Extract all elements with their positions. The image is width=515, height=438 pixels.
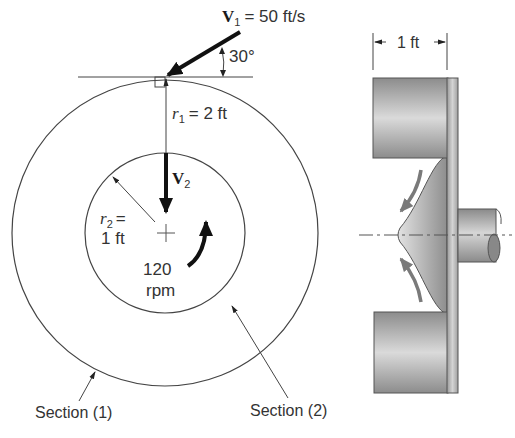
width-label: 1 ft [397, 34, 420, 51]
side-view: 1 ft [359, 33, 512, 393]
section-1-label: Section (1) [35, 404, 112, 421]
rotation-arrow [188, 222, 206, 266]
section-2-label: Section (2) [250, 402, 327, 419]
impeller-top-block [373, 78, 448, 158]
r2-value: 1 ft [101, 229, 125, 248]
shaft-break [488, 234, 500, 262]
v1-label: V1= 50 ft/s [222, 7, 305, 28]
speed-value: 120 [143, 260, 171, 279]
right-angle-marker [155, 77, 165, 87]
front-view: V1= 50 ft/s 30° r1= 2 ft V2 r2= 1 ft 120… [12, 7, 327, 421]
r2-label: r2= [100, 209, 126, 230]
section-1-leader [79, 372, 95, 401]
speed-unit: rpm [146, 281, 175, 300]
section-2-leader [232, 306, 288, 398]
r1-label: r1= 2 ft [172, 104, 227, 125]
angle-label: 30° [229, 47, 255, 66]
pump-diagram: V1= 50 ft/s 30° r1= 2 ft V2 r2= 1 ft 120… [0, 0, 515, 438]
v2-label: V2 [172, 169, 190, 190]
impeller-bottom-block [374, 312, 448, 393]
